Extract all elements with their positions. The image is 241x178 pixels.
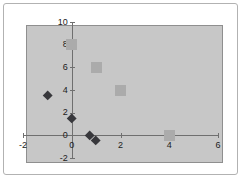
chart-frame: -202461086420-2 [3,3,238,175]
scatter-chart: -202461086420-2 [0,0,241,178]
y-axis-tick-label: 10 [45,18,68,27]
y-axis-tick-label: -2 [45,154,68,163]
y-axis-tick [70,22,75,23]
y-axis-tick [70,135,75,136]
x-axis-tick [23,133,24,138]
y-axis-tick-label: 2 [45,108,68,117]
y-axis-tick [70,158,75,159]
y-axis-tick [70,90,75,91]
x-axis-tick-label: 6 [208,141,228,150]
x-axis-tick [121,133,122,138]
square-marker [164,130,175,141]
y-axis-tick-label: 6 [45,63,68,72]
y-axis-tick-label: 0 [45,131,68,140]
diamond-marker [67,113,77,123]
x-axis-tick-label: 2 [111,141,131,150]
x-axis-tick-label: 0 [62,141,82,150]
square-marker [115,85,126,96]
x-axis-tick [218,133,219,138]
y-axis-tick-label: 8 [45,40,68,49]
x-axis-tick-label: 4 [159,141,179,150]
chart-overlay: -202461086420-2 [1,1,241,178]
diamond-marker [91,136,101,146]
square-marker [91,62,102,73]
square-marker [66,39,77,50]
x-axis-tick-label: -2 [13,141,33,150]
y-axis-tick [70,67,75,68]
